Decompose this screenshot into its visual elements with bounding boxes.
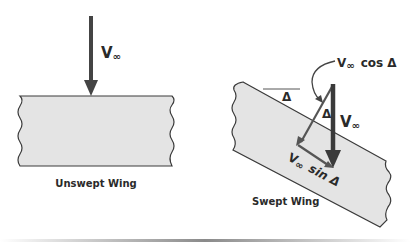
unswept-wing-group: V∞ Unswept Wing — [18, 16, 174, 189]
unswept-freestream-arrowhead — [84, 80, 98, 96]
diagram-canvas: V∞ Unswept Wing Δ Δ V∞ V∞cos Δ V — [0, 0, 410, 246]
unswept-wing-caption: Unswept Wing — [55, 178, 136, 189]
unswept-wing-shape — [18, 96, 174, 166]
unswept-velocity-label: V∞ — [101, 44, 121, 62]
swept-wing-group: Δ Δ V∞ V∞cos Δ V∞sin Δ Swept Wing — [232, 56, 397, 227]
normal-component-label: V∞cos Δ — [337, 56, 397, 71]
swept-velocity-label: V∞ — [340, 113, 360, 131]
sweep-angle-label: Δ — [282, 90, 292, 104]
swept-wing-caption: Swept Wing — [252, 196, 319, 207]
bottom-separator — [0, 239, 410, 242]
inner-angle-label: Δ — [322, 107, 332, 121]
